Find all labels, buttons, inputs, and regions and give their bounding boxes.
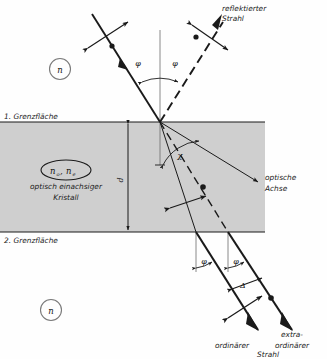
exit-angle-left-label: φ	[201, 257, 207, 266]
reflected-ray	[160, 22, 223, 122]
optical-axis-label-line2: Achse	[264, 184, 288, 193]
extraordinary-inside-polarization-dot	[200, 184, 206, 190]
incident-polarization-dot	[109, 43, 114, 48]
extraordinary-ray-label-line1: extra-	[281, 330, 303, 339]
ordinary-emergent-polarization-arrow	[228, 296, 262, 318]
extraordinary-emergent-polarization-dot	[268, 295, 274, 301]
first-boundary-label: 1. Grenzfläche	[4, 112, 58, 121]
incident-ray-direction-arrow	[118, 58, 128, 70]
emergent-strahl-label: Strahl	[257, 350, 280, 359]
crystal-slab	[0, 122, 265, 232]
ordinary-ray-label: ordinärer	[215, 341, 250, 350]
crystal-indices-separator: ,	[60, 166, 63, 176]
incident-polarization-arrow	[88, 22, 128, 48]
crystal-index-o: n	[50, 166, 55, 176]
separation-delta-label: Δ	[239, 281, 246, 290]
reflected-polarization-dot	[193, 34, 198, 39]
exit-angle-right-label: φ	[233, 257, 239, 266]
optical-axis-label-line1: optische	[265, 173, 297, 182]
thickness-label: d	[116, 177, 125, 182]
reflected-ray-label-line2: Strahl	[222, 14, 245, 23]
lower-medium-index-label: n	[48, 306, 53, 316]
reflected-ray-label-line1: reflektierter	[222, 4, 267, 13]
diagram-canvas: n n n o , n e optisch einachsiger Krista…	[0, 0, 327, 359]
double-refraction-figure: n n n o , n e optisch einachsiger Krista…	[0, 0, 327, 359]
ordinary-ray-arrow	[246, 312, 259, 331]
second-boundary-label: 2. Grenzfläche	[4, 236, 58, 245]
incidence-angle-label: φ	[135, 59, 141, 68]
extraordinary-ray-arrow	[280, 312, 293, 331]
crystal-description-line2: Kristall	[53, 193, 79, 202]
crystal-index-e-subscript: e	[73, 171, 76, 177]
crystal-index-e: n	[66, 166, 71, 176]
crystal-description-line1: optisch einachsiger	[30, 182, 103, 191]
extraordinary-ray-label-line2: ordinärer	[275, 341, 310, 350]
upper-medium-index-label: n	[57, 65, 62, 75]
separation-delta-arrow	[232, 278, 262, 289]
reflection-angle-label: φ	[172, 59, 178, 68]
